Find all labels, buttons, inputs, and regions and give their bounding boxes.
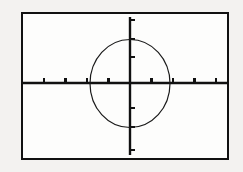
screen-frame-border — [22, 13, 228, 159]
graph-canvas — [0, 0, 243, 172]
screenshot-root — [0, 0, 243, 172]
